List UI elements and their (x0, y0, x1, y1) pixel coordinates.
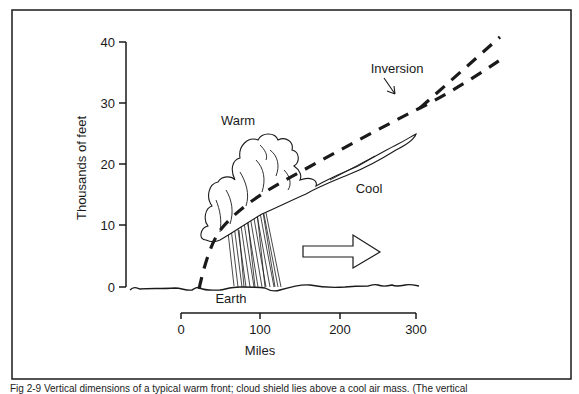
x-tick-0: 0 (177, 322, 184, 337)
warm-label: Warm (221, 113, 255, 128)
figure-caption: Fig 2-9 Vertical dimensions of a typical… (10, 383, 575, 394)
y-axis-label: Thousands of feet (74, 116, 89, 220)
cool-label: Cool (356, 181, 383, 196)
movement-direction-arrow (303, 235, 380, 268)
y-tick-30: 30 (101, 96, 115, 111)
front-upper-dash (420, 37, 500, 108)
inversion-label: Inversion (371, 61, 424, 76)
y-tick-10: 10 (101, 218, 115, 233)
x-axis-label: Miles (245, 343, 276, 358)
x-tick-300: 300 (405, 322, 427, 337)
y-tick-0: 0 (108, 280, 115, 295)
y-tick-40: 40 (101, 35, 115, 50)
x-axis: 0 100 200 300 Miles (177, 313, 426, 358)
y-tick-20: 20 (101, 157, 115, 172)
cloud-mass (201, 134, 416, 242)
y-axis: 40 30 20 10 0 Thousands of feet (74, 35, 126, 295)
inversion-pointer-arrow (384, 78, 395, 94)
earth-label: Earth (215, 291, 246, 306)
x-tick-100: 100 (249, 322, 271, 337)
x-tick-200: 200 (329, 322, 351, 337)
